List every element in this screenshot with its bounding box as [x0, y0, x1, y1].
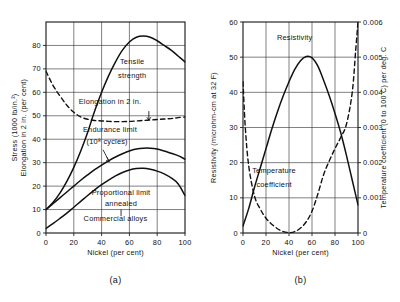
y2-axis-title: Temperature coefficient (0 to 100 C) per… [379, 47, 388, 209]
x-axis: 020406080100Nickel (per cent) [44, 233, 192, 257]
y-axis-right: 00.0010.0020.0030.0040.0050.006Temperatu… [358, 18, 388, 238]
y2-tick-label: 0.006 [363, 18, 383, 27]
annotation-label: strength [118, 71, 146, 80]
x-tick-label: 40 [285, 238, 294, 247]
series-curve [243, 56, 358, 226]
x-tick-label: 20 [262, 238, 271, 247]
x-axis-title: Nickel (per cent) [272, 248, 329, 257]
y-tick-label: 60 [32, 88, 41, 97]
y-axis-left: 01020304050607080Stress (1000 lb/in.²)El… [10, 41, 46, 238]
x-tick-label: 40 [97, 238, 106, 247]
x-tick-label: 0 [44, 238, 48, 247]
annotation-label: annealed [105, 199, 137, 208]
y-tick-label: 70 [32, 64, 41, 73]
annotation-label: Endurance limit [83, 125, 137, 134]
y-tick-label: 0 [234, 229, 238, 238]
y-tick-label: 50 [229, 53, 238, 62]
figure-root: 020406080100Nickel (per cent)01020304050… [0, 0, 400, 302]
annotations: ResistivityTemperaturecoefficient [252, 33, 312, 190]
y-tick-label: 20 [32, 182, 41, 191]
y-tick-label: 40 [229, 88, 238, 97]
x-tick-label: 60 [125, 238, 134, 247]
two-panel-figure: 020406080100Nickel (per cent)01020304050… [0, 0, 400, 302]
annotation-label: Tensile [120, 57, 144, 66]
x-tick-label: 0 [241, 238, 245, 247]
annotations: TensilestrengthElongation in 2 in.Endura… [79, 57, 151, 223]
x-tick-label: 100 [351, 238, 364, 247]
panel-caption: (a) [109, 275, 121, 285]
x-axis-title: Nickel (per cent) [87, 248, 144, 257]
x-tick-label: 20 [69, 238, 78, 247]
y-axis-title: Resistivity (microhm-cm at 32 F) [209, 72, 218, 183]
annotation-label: Proportional limit [92, 188, 151, 197]
annotation-label: (10⁸ cycles) [87, 137, 128, 146]
annotation-label: Temperature [252, 166, 296, 175]
y-tick-label: 50 [32, 111, 41, 120]
series-curve [46, 36, 185, 209]
y-tick-label: 80 [32, 41, 41, 50]
annotation-label: Elongation in 2 in. [79, 97, 142, 106]
y-tick-label: 60 [229, 18, 238, 27]
annotation-label: coefficient [256, 180, 291, 189]
panel-caption: (b) [294, 275, 306, 285]
y-tick-label: 40 [32, 135, 41, 144]
annotation-label: Commercial alloys [84, 214, 148, 223]
y-tick-label: 30 [32, 158, 41, 167]
annotation-label: Resistivity [277, 33, 313, 42]
x-tick-label: 60 [308, 238, 317, 247]
gridlines [243, 22, 358, 233]
x-axis: 020406080100Nickel (per cent) [241, 233, 365, 257]
y-tick-label: 10 [32, 205, 41, 214]
y2-tick-label: 0 [363, 229, 367, 238]
x-tick-label: 80 [331, 238, 340, 247]
y-tick-label: 30 [229, 123, 238, 132]
x-tick-label: 100 [178, 238, 191, 247]
y-axis-title: Elongation in 2 in. (per cent) [19, 79, 28, 176]
y-tick-label: 10 [229, 193, 238, 202]
y-axis-left: 0102030405060Resistivity (microhm-cm at … [209, 18, 243, 238]
x-tick-label: 80 [153, 238, 162, 247]
y-tick-label: 0 [37, 229, 41, 238]
y-tick-label: 20 [229, 158, 238, 167]
chart-panel-b: 020406080100Nickel (per cent)01020304050… [209, 18, 388, 285]
chart-panel-a: 020406080100Nickel (per cent)01020304050… [10, 22, 192, 285]
